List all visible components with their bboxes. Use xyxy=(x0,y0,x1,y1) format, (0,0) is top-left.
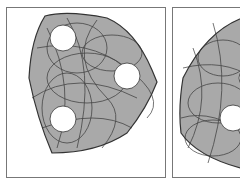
blob-figure-right xyxy=(173,8,240,178)
hole xyxy=(50,25,76,51)
panel-right xyxy=(172,7,240,178)
hole xyxy=(114,63,140,89)
hole xyxy=(50,106,76,132)
blob-figure-left xyxy=(7,8,166,178)
panel-left xyxy=(6,7,166,178)
